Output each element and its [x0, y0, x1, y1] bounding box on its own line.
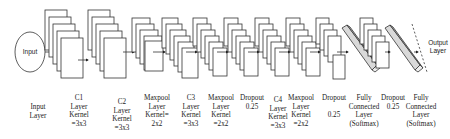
label-line: Kernel= [144, 111, 170, 120]
label-maxpool1: MaxpoolLayerKernel=2x2 [144, 94, 170, 128]
label-line: Layer [268, 105, 288, 114]
label-line: Layer [208, 103, 234, 112]
label-line: Kernel [268, 113, 288, 122]
label-line: Input [30, 103, 47, 112]
label-line: (Softmax) [406, 120, 437, 129]
label-line: 0.25 [381, 103, 405, 112]
label-line: Layer [288, 103, 314, 112]
label-line: Fully [406, 94, 437, 103]
label-line: 0.25 [240, 103, 264, 112]
label-dropout3: Dropout0.25 [381, 94, 405, 111]
label-line: Dropout [322, 94, 346, 103]
label-line: Kernel [208, 111, 234, 120]
dropout3-stack [360, 18, 389, 68]
label-line: Layer [112, 107, 132, 116]
label-line: Layer [30, 112, 47, 121]
label-dropout2: Dropout 0.25 [322, 94, 346, 120]
label-line: =3x3 [268, 122, 288, 131]
label-line: Kernel [181, 111, 201, 120]
fc2-dense-bar [385, 25, 423, 72]
label-line: Maxpool [208, 94, 234, 103]
label-dropout1: Dropout0.25 [240, 94, 264, 111]
label-maxpool2: MaxpoolLayerKernel=2x2 [208, 94, 234, 128]
label-line: Kernel [69, 111, 89, 120]
label-line: Dropout [381, 94, 405, 103]
c1-stack [45, 10, 83, 78]
label-c2: C2LayerKernel=3x3 [112, 98, 132, 132]
label-line [322, 103, 346, 112]
cnn-architecture-diagram: Input [0, 0, 450, 85]
label-line: 2x2 [144, 120, 170, 129]
label-line: C3 [181, 94, 201, 103]
c2-stack [88, 10, 126, 78]
label-line: Layer [181, 103, 201, 112]
label-line: Kernel [288, 111, 314, 120]
label-line: Layer [69, 103, 89, 112]
label-line: =3x3 [181, 120, 201, 129]
maxpool1-stack [132, 18, 163, 71]
label-line: Layer [349, 111, 380, 120]
label-line: 0.25 [322, 111, 346, 120]
label-line: Kernel [112, 115, 132, 124]
output-label-line1: Output [428, 39, 448, 47]
label-line: C1 [69, 94, 89, 103]
label-line: Dropout [240, 94, 264, 103]
label-line: C2 [112, 98, 132, 107]
c4-stack [255, 18, 289, 76]
label-fc1: FullyConnectedLayer(Softmax) [349, 94, 380, 128]
input-node: Input [15, 32, 45, 72]
label-line: =2x2 [288, 120, 314, 129]
dropout1-stack [224, 18, 258, 76]
label-line: C4 [268, 96, 288, 105]
label-fc2: FullyConnectedLayer(Softmax) [406, 94, 437, 128]
label-line: (Softmax) [349, 120, 380, 129]
label-c4: C4LayerKernel=3x3 [268, 96, 288, 130]
label-input: InputLayer [30, 103, 47, 120]
label-maxpool3: MaxpoolLayerKernel=2x2 [288, 94, 314, 128]
label-c3: C3LayerKernel=3x3 [181, 94, 201, 128]
label-line: Maxpool [144, 94, 170, 103]
label-line: =3x3 [112, 124, 132, 133]
label-line: Connected [349, 103, 380, 112]
label-line: Fully [349, 94, 380, 103]
label-line: =3x3 [69, 120, 89, 129]
label-c1: C1LayerKernel=3x3 [69, 94, 89, 128]
label-line: Maxpool [288, 94, 314, 103]
output-label-line2: Layer [430, 47, 447, 55]
input-node-label: Input [23, 48, 38, 56]
maxpool3-stack [286, 18, 320, 76]
label-line: Layer [406, 111, 437, 120]
label-line: =2x2 [208, 120, 234, 129]
label-line: Layer [144, 103, 170, 112]
label-line: Connected [406, 103, 437, 112]
